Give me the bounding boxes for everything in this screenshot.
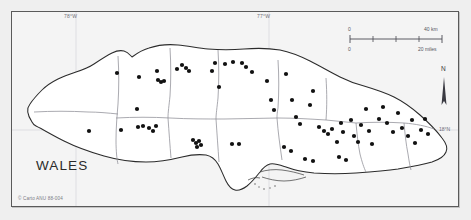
scale-bar-graphic (348, 33, 453, 47)
offshore-cays (254, 183, 276, 190)
scale-bar: 0 40 km 0 20 miles (348, 26, 453, 56)
north-arrow-label: N (441, 65, 446, 72)
north-arrow: N (436, 65, 456, 109)
longitude-label-77w: 77°W (257, 13, 270, 19)
map-frame: 78°W 77°W 18°N WALES © Carto ANU 88-004 … (11, 11, 459, 207)
longitude-label-78w: 78°W (64, 13, 77, 19)
scale-bar-km-max: 40 km (424, 26, 438, 32)
latitude-label-18n: 18°N (439, 126, 450, 132)
scale-bar-miles-zero: 0 (348, 46, 351, 52)
region-label: WALES (36, 158, 88, 173)
map-figure: 78°W 77°W 18°N WALES © Carto ANU 88-004 … (0, 0, 471, 220)
island-landmass (28, 45, 447, 191)
scale-bar-miles-max: 20 miles (418, 46, 437, 52)
north-arrow-icon (436, 75, 456, 109)
scale-bar-km-zero: 0 (348, 26, 351, 32)
map-credit: © Carto ANU 88-004 (18, 196, 63, 201)
